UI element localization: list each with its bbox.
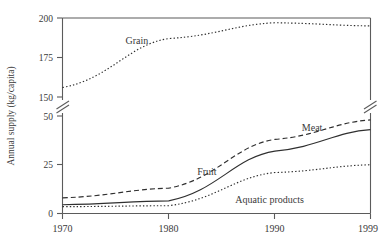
- series-annotations: Grain Meat Fruit Aquatic products: [125, 35, 322, 205]
- y-tick-label-0: 0: [48, 209, 53, 219]
- y-axis-break-right: [364, 100, 377, 113]
- y-tick-label-175: 175: [39, 53, 54, 63]
- series-line-meat: [63, 120, 371, 198]
- y-axis-ticks: [57, 18, 63, 214]
- series-line-grain: [63, 23, 371, 88]
- y-axis-title: Annual supply (kg/capita): [6, 66, 17, 165]
- y-tick-label-25: 25: [44, 160, 54, 170]
- series-label-grain: Grain: [125, 35, 148, 46]
- series-label-aquatic-products: Aquatic products: [235, 194, 304, 205]
- series-label-fruit: Fruit: [197, 166, 217, 177]
- x-tick-label-1999: 1999: [358, 223, 378, 234]
- x-tick-label-1980: 1980: [159, 223, 179, 234]
- series-label-meat: Meat: [302, 122, 323, 133]
- line-chart: 200 175 150 50 25 0 1970 1980 1990: [0, 0, 389, 247]
- x-axis-ticks: [63, 214, 371, 220]
- y-tick-label-150: 150: [39, 93, 54, 103]
- y-tick-label-200: 200: [39, 14, 54, 24]
- x-tick-label-1990: 1990: [265, 223, 285, 234]
- y-axis-tick-labels: 200 175 150 50 25 0: [39, 14, 54, 220]
- series-paths: [63, 23, 371, 207]
- y-axis-break-left: [57, 100, 70, 113]
- x-tick-label-1970: 1970: [53, 223, 73, 234]
- x-axis-tick-labels: 1970 1980 1990 1999: [53, 223, 379, 234]
- plot-frame: [63, 18, 371, 214]
- chart-container: 200 175 150 50 25 0 1970 1980 1990: [0, 0, 389, 247]
- y-tick-label-50: 50: [44, 112, 54, 122]
